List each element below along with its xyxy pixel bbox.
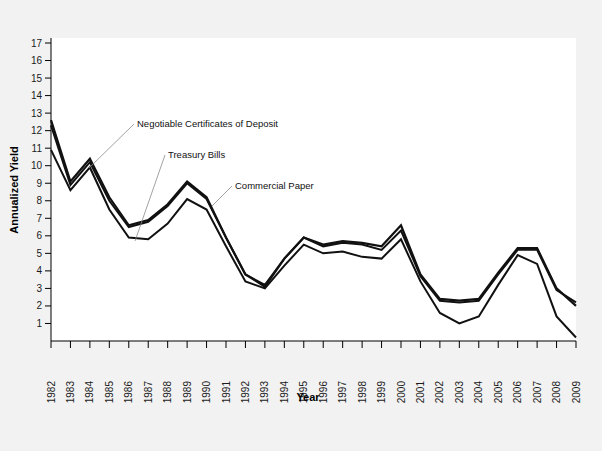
- y-tick-label: 15: [31, 73, 43, 84]
- y-tick-label: 9: [36, 178, 42, 189]
- y-tick-label: 8: [36, 195, 42, 206]
- x-tick-label: 1999: [376, 381, 387, 404]
- y-tick-label: 11: [32, 143, 43, 154]
- x-tick-label: 2005: [493, 381, 504, 404]
- x-tick-label: 2007: [532, 381, 543, 404]
- y-tick-label: 12: [31, 125, 43, 136]
- annotation-label-tbills: Treasury Bills: [168, 149, 225, 160]
- x-tick-label: 1983: [65, 381, 76, 404]
- x-tick-label: 1984: [84, 381, 95, 404]
- x-tick-label: 1990: [201, 381, 212, 404]
- yield-line-chart: 1234567891011121314151617 Annualized Yie…: [0, 0, 602, 451]
- x-tick-label: 1982: [46, 381, 57, 404]
- chart-figure: 1234567891011121314151617 Annualized Yie…: [0, 0, 602, 451]
- x-tick-label: 1991: [221, 381, 232, 404]
- x-axis-title: Year: [296, 391, 320, 403]
- annotation-label-cd: Negotiable Certificates of Deposit: [137, 118, 278, 129]
- y-tick-label: 5: [36, 248, 42, 259]
- x-tick-label: 2000: [396, 381, 407, 404]
- x-tick-label: 1989: [182, 381, 193, 404]
- y-tick-label: 1: [36, 318, 42, 329]
- x-tick-label: 2002: [434, 381, 445, 404]
- annotation-label-cp: Commercial Paper: [235, 180, 314, 191]
- y-tick-label: 13: [31, 108, 43, 119]
- x-tick-label: 2006: [512, 381, 523, 404]
- y-tick-label: 7: [36, 213, 42, 224]
- x-tick-label: 1998: [357, 381, 368, 404]
- x-tick-label: 1997: [337, 381, 348, 404]
- x-tick-label: 1992: [240, 381, 251, 404]
- y-axis-title: Annualized Yield: [8, 146, 20, 233]
- y-tick-label: 3: [36, 283, 42, 294]
- y-tick-label: 2: [36, 300, 42, 311]
- x-tick-label: 1986: [123, 381, 134, 404]
- x-tick-label: 1988: [162, 381, 173, 404]
- x-tick-label: 2003: [454, 381, 465, 404]
- x-tick-label: 1985: [104, 381, 115, 404]
- x-tick-label: 1993: [259, 381, 270, 404]
- y-tick-label: 10: [31, 160, 43, 171]
- x-tick-label: 2004: [473, 381, 484, 404]
- y-tick-label: 6: [36, 230, 42, 241]
- y-tick-label: 14: [31, 90, 43, 101]
- x-tick-label: 1994: [279, 381, 290, 404]
- x-tick-label: 2001: [415, 381, 426, 404]
- y-tick-label: 4: [36, 265, 42, 276]
- x-tick-label: 2009: [571, 381, 582, 404]
- x-tick-label: 2008: [551, 381, 562, 404]
- x-tick-label: 1987: [143, 381, 154, 404]
- y-tick-label: 17: [31, 38, 43, 49]
- y-tick-label: 16: [31, 55, 43, 66]
